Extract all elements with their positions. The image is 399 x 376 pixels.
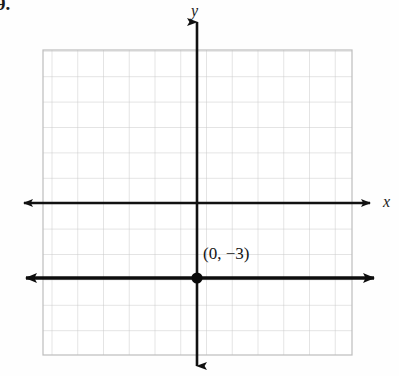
coordinate-plane-figure: 9. xyxy=(0,0,399,376)
y-axis-label: y xyxy=(191,2,198,20)
point-coordinate-label: (0, −3) xyxy=(203,244,249,264)
graph-axes-and-line xyxy=(0,0,399,376)
x-axis-label: x xyxy=(383,193,390,211)
plotted-point-marker xyxy=(191,272,202,283)
